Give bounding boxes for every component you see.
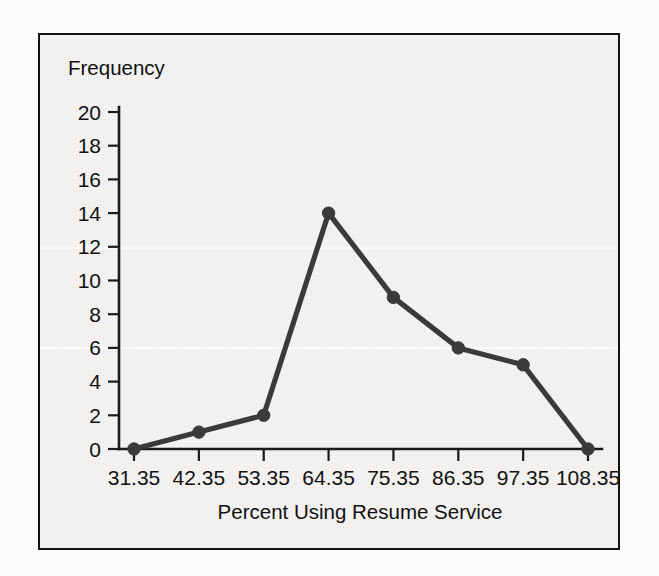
data-point-marker: [517, 359, 529, 371]
scanned-page: Frequency 02468101214161820 31.3542.3553…: [0, 0, 659, 576]
y-tick-label: 20: [78, 101, 101, 124]
y-tick-label: 12: [78, 235, 101, 258]
y-tick-label: 8: [89, 303, 101, 326]
data-point-marker: [128, 443, 140, 455]
x-tick-label: 108.35: [556, 466, 618, 489]
y-tick-label: 4: [89, 370, 101, 393]
data-point-marker: [582, 443, 594, 455]
x-axis-title: Percent Using Resume Service: [218, 500, 503, 523]
data-point-marker: [452, 342, 464, 354]
x-tick-label: 42.35: [173, 466, 226, 489]
figure-frame: Frequency 02468101214161820 31.3542.3553…: [38, 33, 620, 550]
y-tick-label: 6: [89, 336, 101, 359]
data-point-marker: [193, 426, 205, 438]
y-tick-label: 16: [78, 168, 101, 191]
y-tick-label: 14: [78, 202, 102, 225]
x-axis-ticks: 31.3542.3553.3564.3575.3586.3597.35108.3…: [108, 449, 618, 489]
y-tick-label: 0: [89, 438, 101, 461]
frequency-polygon-chart: Frequency 02468101214161820 31.3542.3553…: [40, 35, 618, 548]
x-tick-label: 53.35: [237, 466, 290, 489]
x-tick-label: 97.35: [497, 466, 550, 489]
x-tick-label: 64.35: [302, 466, 355, 489]
y-axis-title: Frequency: [68, 56, 166, 79]
y-axis-ticks: 02468101214161820: [78, 101, 119, 461]
data-point-marker: [322, 207, 334, 219]
data-point-markers: [128, 207, 594, 455]
x-tick-label: 31.35: [108, 466, 161, 489]
data-point-marker: [387, 291, 399, 303]
y-tick-label: 10: [78, 269, 101, 292]
y-tick-label: 2: [89, 404, 101, 427]
x-tick-label: 75.35: [367, 466, 420, 489]
frequency-polygon-line: [134, 213, 588, 449]
y-tick-label: 18: [78, 134, 101, 157]
x-tick-label: 86.35: [432, 466, 485, 489]
data-point-marker: [258, 409, 270, 421]
